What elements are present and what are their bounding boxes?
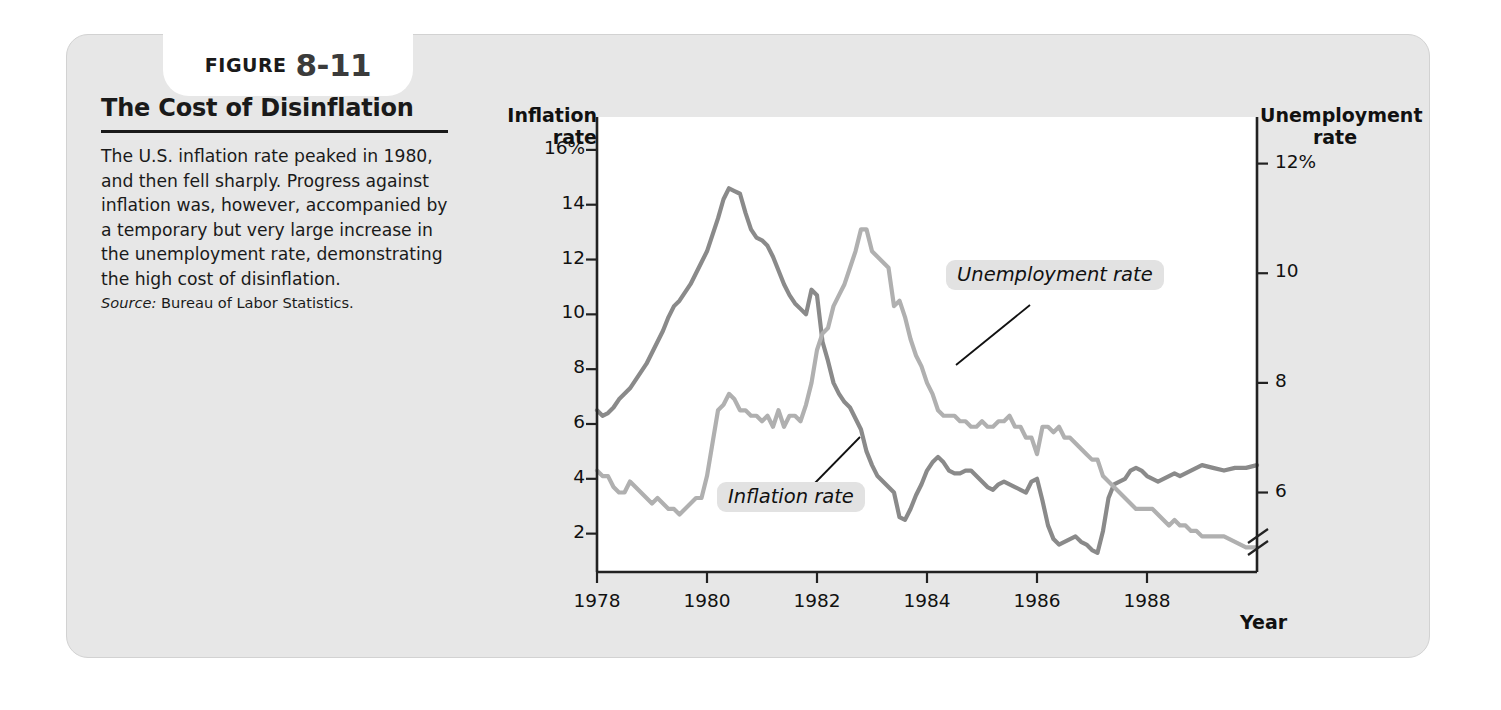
x-tick-label: 1980: [669, 590, 745, 611]
right-tick-label: 6: [1275, 480, 1345, 501]
left-axis-title-line1: Inflation: [507, 104, 597, 126]
x-tick-label: 1986: [999, 590, 1075, 611]
left-tick-label: 14: [512, 192, 585, 213]
source-label: Source:: [101, 294, 156, 311]
left-tick-label: 6: [512, 411, 585, 432]
x-tick-label: 1982: [779, 590, 855, 611]
figure-number-tab: FIGURE 8-11: [163, 34, 413, 96]
title-divider: [101, 130, 448, 133]
left-tick-label: 4: [512, 466, 585, 487]
x-tick-label: 1984: [889, 590, 965, 611]
right-tick-label: 12%: [1275, 151, 1345, 172]
x-tick-label: 1978: [559, 590, 635, 611]
series-label-unemployment: Unemployment rate: [946, 260, 1164, 290]
left-tick-label: 12: [512, 247, 585, 268]
left-tick-label: 2: [512, 521, 585, 542]
chart-area: Inflation rate Unemployment rate Year 16…: [470, 100, 1370, 645]
figure-description: The U.S. inflation rate peaked in 1980, …: [101, 144, 454, 291]
figure-source: Source: Bureau of Labor Statistics.: [101, 294, 454, 313]
figure-label: FIGURE: [205, 54, 287, 76]
right-axis-title: Unemployment rate: [1260, 105, 1410, 148]
figure-page: { "figure": { "label_word": "FIGURE", "n…: [0, 0, 1501, 710]
right-axis-title-line1: Unemployment: [1260, 104, 1422, 126]
right-tick-label: 8: [1275, 370, 1345, 391]
caption-column: The Cost of Disinflation The U.S. inflat…: [101, 95, 454, 313]
figure-title: The Cost of Disinflation: [101, 95, 454, 121]
x-tick-label: 1988: [1109, 590, 1185, 611]
chart-plot: [470, 100, 1370, 645]
left-tick-label: 10: [512, 301, 585, 322]
right-axis-title-line2: rate: [1313, 126, 1357, 148]
series-label-inflation: Inflation rate: [717, 482, 865, 512]
right-tick-label: 10: [1275, 260, 1345, 281]
source-text: Bureau of Labor Statistics.: [161, 294, 354, 311]
left-tick-label: 16%: [512, 137, 585, 158]
figure-number: 8-11: [296, 47, 372, 83]
plot-background: [597, 117, 1257, 572]
x-axis-title: Year: [1240, 612, 1287, 634]
left-tick-label: 8: [512, 356, 585, 377]
